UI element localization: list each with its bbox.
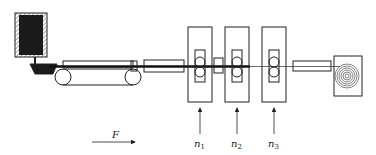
label-n1: n1 xyxy=(194,138,205,151)
label-n3: n3 xyxy=(268,138,279,151)
rolling-process-diagram: n1 n2 n3 F xyxy=(0,0,376,155)
label-force: F xyxy=(111,129,120,140)
rolling-stand-3 xyxy=(262,27,286,102)
label-n2: n2 xyxy=(231,138,242,151)
force-arrow: F xyxy=(92,129,135,142)
exit-guide xyxy=(293,61,331,71)
coiler xyxy=(334,56,362,96)
belt-caster xyxy=(55,61,141,85)
rolling-stand-2 xyxy=(225,27,249,102)
rolling-stand-1 xyxy=(188,27,212,102)
ladle xyxy=(15,13,47,66)
